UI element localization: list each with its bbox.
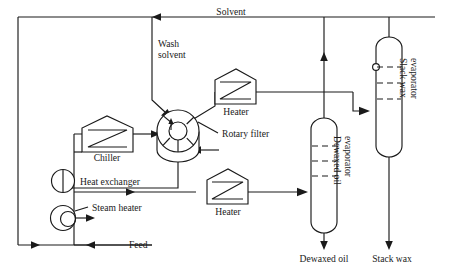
top-heater-to-slack-wax — [256, 92, 370, 115]
label-dewaxed-oil-evaporator-line2: evaporator — [343, 136, 354, 178]
label-dewaxed-oil-evaporator-line1: Dewaxed oil — [332, 136, 343, 185]
label-feed: Feed — [129, 239, 148, 250]
label-wash-solvent-line1: Wash — [158, 38, 179, 49]
equipment-chiller[interactable] — [82, 116, 133, 152]
slack-wax-bottoms — [385, 156, 393, 250]
stream-wash-solvent — [152, 17, 172, 118]
hx-to-bottom-heater — [74, 188, 196, 196]
label-heat-exchanger: Heat exchanger — [80, 176, 141, 187]
rotary-filter-leader — [198, 122, 218, 133]
equipment-steam-heater[interactable] — [51, 206, 76, 231]
dewaxed-oil-bottoms-arrow — [320, 241, 328, 250]
slack-wax-inlet-arrow — [359, 107, 370, 115]
dewaxed-oil-overhead — [320, 17, 328, 129]
wash-solvent-line — [152, 17, 165, 112]
top-heater-down-line — [353, 92, 360, 111]
stack-wax-arrow — [385, 241, 393, 250]
process-flow-diagram: Solvent Wash solvent Chiller Heat exchan… — [0, 0, 451, 271]
steam-heater-outlet — [74, 214, 95, 222]
feed-arrow-right-into-line — [31, 241, 40, 249]
label-heater-bottom: Heater — [215, 206, 241, 217]
equipment-heater-top[interactable] — [215, 69, 256, 104]
label-solvent: Solvent — [216, 6, 246, 17]
filter-to-top-heater — [192, 92, 215, 120]
steam-heater-outlet-arrow — [86, 214, 95, 222]
label-heater-top: Heater — [223, 106, 249, 117]
equipment-slack-wax-evaporator[interactable] — [373, 37, 402, 157]
dewaxed-oil-inlet-arrow — [297, 188, 308, 196]
label-wash-solvent-line2: solvent — [158, 49, 186, 60]
equipment-heater-bottom[interactable] — [207, 169, 248, 204]
equipment-rotary-filter[interactable] — [157, 110, 199, 162]
label-chiller: Chiller — [94, 152, 121, 163]
dewaxed-oil-bottoms — [320, 232, 328, 250]
steam-heater-leader — [75, 207, 88, 211]
pfd-canvas: Solvent Wash solvent Chiller Heat exchan… — [0, 0, 451, 271]
solvent-header-arrow — [152, 13, 161, 21]
dewaxed-oil-overhead-arrow — [320, 52, 328, 61]
feed-arrow-left — [86, 241, 95, 249]
equipment-heat-exchanger[interactable] — [52, 170, 75, 193]
label-steam-heater: Steam heater — [92, 202, 143, 213]
label-dewaxed-oil: Dewaxed oil — [300, 253, 349, 264]
label-stack-wax: Stack wax — [372, 253, 412, 264]
hx-to-bottom-heater-arrow — [126, 188, 135, 196]
steam-heater-body — [51, 206, 76, 231]
label-rotary-filter: Rotary filter — [222, 128, 270, 139]
label-slack-wax-evaporator-line1: Slack wax — [398, 58, 409, 98]
label-slack-wax-evaporator-line2: evaporator — [409, 58, 420, 100]
bottom-heater-to-dewaxed-oil — [248, 188, 308, 196]
